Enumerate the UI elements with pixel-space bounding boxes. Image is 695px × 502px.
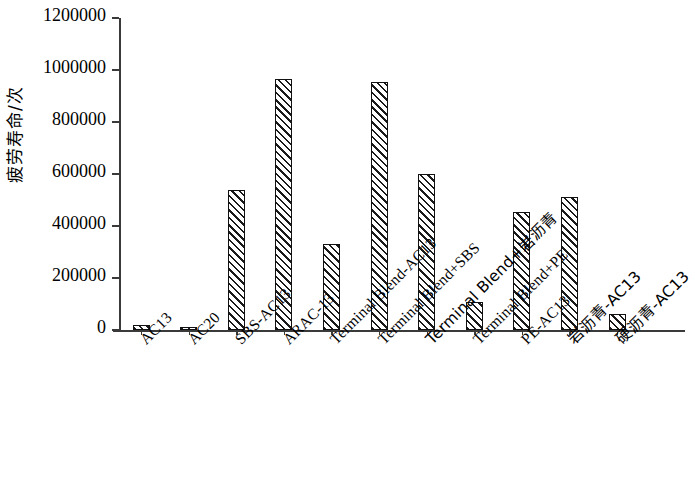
y-tick-label: 800000 (52, 110, 106, 128)
y-tick-mark (112, 329, 119, 331)
y-tick-mark (112, 173, 119, 175)
y-tick-label: 1200000 (43, 6, 106, 24)
y-axis-line (119, 18, 121, 330)
x-axis-label: AC13 (137, 309, 175, 347)
y-tick-mark (112, 225, 119, 227)
x-axis-label: AC20 (185, 309, 223, 347)
y-axis-title: 疲劳寿命/次 (1, 70, 26, 200)
y-tick-mark (112, 121, 119, 123)
y-tick-label: 1000000 (43, 58, 106, 76)
y-tick-mark (112, 277, 119, 279)
y-tick-mark (112, 69, 119, 71)
y-tick-label: 400000 (52, 214, 106, 232)
y-tick-mark (112, 17, 119, 19)
y-tick-label: 200000 (52, 266, 106, 284)
bar (323, 244, 340, 330)
y-tick-label: 600000 (52, 162, 106, 180)
bar-chart-figure: 疲劳寿命/次 0 200000 400000 600000 800000 100… (0, 0, 695, 502)
bar (228, 190, 245, 330)
plot-area: 0 200000 400000 600000 800000 1000000 12… (119, 18, 685, 330)
y-tick-label: 0 (97, 318, 106, 336)
